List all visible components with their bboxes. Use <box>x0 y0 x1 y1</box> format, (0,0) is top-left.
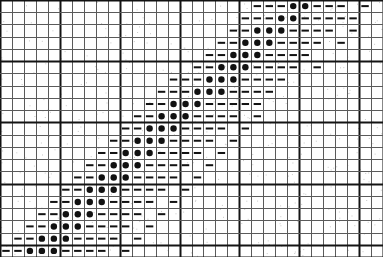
cell-mark-dot <box>122 150 128 156</box>
paper-speck <box>381 133 382 134</box>
paper-speck <box>18 201 19 202</box>
paper-speck <box>225 93 226 94</box>
cell-mark-dash <box>290 66 297 68</box>
paper-speck <box>183 212 184 213</box>
cell-mark-dot <box>75 211 81 217</box>
cell-mark-dash <box>146 164 153 166</box>
paper-speck <box>49 136 50 137</box>
paper-speck <box>280 223 281 224</box>
cell-mark-dash <box>313 42 320 44</box>
paper-speck <box>45 63 46 64</box>
paper-speck <box>354 225 355 226</box>
paper-speck <box>137 9 138 10</box>
paper-speck <box>137 32 138 33</box>
cell-mark-dash <box>301 42 308 44</box>
paper-speck <box>301 154 302 155</box>
paper-speck <box>280 216 281 217</box>
cell-mark-dash <box>301 54 308 56</box>
paper-speck <box>357 139 358 140</box>
paper-speck <box>123 116 124 117</box>
paper-speck <box>278 63 279 64</box>
cell-mark-dash <box>86 238 93 240</box>
cell-mark-dot <box>110 174 116 180</box>
cell-mark-dash <box>290 54 297 56</box>
paper-speck <box>273 101 274 102</box>
cell-mark-dot <box>254 27 260 33</box>
paper-speck <box>110 42 111 43</box>
paper-speck <box>343 67 344 68</box>
paper-speck <box>143 17 144 18</box>
cell-mark-dash <box>146 176 153 178</box>
cell-mark-dash <box>242 103 249 105</box>
cell-mark-dash <box>134 201 141 203</box>
cell-mark-dot <box>194 89 200 95</box>
cell-mark-dash <box>134 213 141 215</box>
cell-mark-dash <box>337 5 344 7</box>
cell-mark-dot <box>230 64 236 70</box>
cell-mark-dot <box>134 150 140 156</box>
paper-speck <box>40 126 41 127</box>
cell-mark-dash <box>158 103 165 105</box>
cell-mark-dash <box>50 213 57 215</box>
paper-speck <box>97 69 98 70</box>
paper-speck <box>218 179 219 180</box>
paper-speck <box>232 106 233 107</box>
paper-speck <box>381 29 382 30</box>
cell-mark-dash <box>218 152 225 154</box>
cell-mark-dash <box>110 238 117 240</box>
cell-mark-dot <box>99 186 105 192</box>
cell-mark-dash <box>122 189 129 191</box>
cell-mark-dot <box>230 76 236 82</box>
cell-mark-dot <box>254 40 260 46</box>
cell-mark-dash <box>182 91 189 93</box>
paper-speck <box>58 218 59 219</box>
paper-speck <box>292 174 293 175</box>
cell-mark-dot <box>290 15 296 21</box>
paper-speck <box>125 35 126 36</box>
cell-mark-dash <box>254 115 261 117</box>
paper-speck <box>107 227 108 228</box>
cell-mark-dash <box>301 30 308 32</box>
paper-speck <box>343 88 344 89</box>
cell-mark-dash <box>254 103 261 105</box>
paper-speck <box>329 41 330 42</box>
paper-speck <box>106 93 107 94</box>
cell-mark-dash <box>158 164 165 166</box>
cell-mark-dash <box>182 128 189 130</box>
paper-speck <box>107 103 108 104</box>
paper-speck <box>66 105 67 106</box>
paper-speck <box>304 70 305 71</box>
paper-speck <box>30 105 31 106</box>
cell-mark-dash <box>170 164 177 166</box>
paper-speck <box>214 101 215 102</box>
paper-speck <box>348 93 349 94</box>
cell-mark-dot <box>218 64 224 70</box>
cell-mark-dash <box>242 30 249 32</box>
paper-speck <box>157 150 158 151</box>
paper-speck <box>336 166 337 167</box>
paper-speck <box>29 40 30 41</box>
paper-speck <box>332 8 333 9</box>
cell-mark-dash <box>110 213 117 215</box>
paper-speck <box>375 22 376 23</box>
paper-speck <box>126 68 127 69</box>
paper-speck <box>2 113 3 114</box>
paper-speck <box>288 176 289 177</box>
paper-speck <box>377 127 378 128</box>
cell-mark-dash <box>26 238 33 240</box>
cell-mark-dash <box>266 66 273 68</box>
paper-speck <box>78 131 79 132</box>
cell-mark-dash <box>242 91 249 93</box>
cell-mark-dash <box>301 17 308 19</box>
cell-mark-dot <box>182 101 188 107</box>
cell-mark-dash <box>74 238 81 240</box>
paper-speck <box>34 166 35 167</box>
paper-speck <box>95 66 96 67</box>
cell-mark-dash <box>230 140 237 142</box>
cell-mark-dash <box>170 140 177 142</box>
cell-mark-dot <box>242 64 248 70</box>
paper-speck <box>51 173 52 174</box>
paper-speck <box>43 99 44 100</box>
paper-speck <box>20 172 21 173</box>
cell-mark-dash <box>182 189 189 191</box>
